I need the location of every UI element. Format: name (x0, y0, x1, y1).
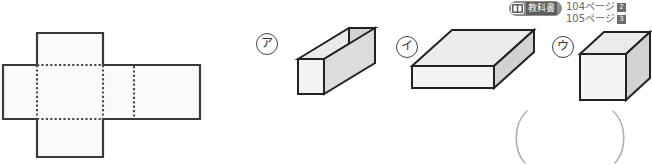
solid-label-i: イ (396, 36, 418, 58)
flat-slab-prism (410, 26, 540, 101)
open-book-icon (511, 3, 524, 14)
textbook-badge[interactable]: 教科書 104ページ 2 105ページ 3 (509, 1, 626, 25)
figure-canvas: ア イ ウ 教科書 104ページ 2 105ページ 3 (0, 0, 652, 165)
prism-b-front-face (412, 66, 494, 88)
page-reference-text: 104ページ (566, 1, 615, 13)
answer-parentheses (505, 108, 635, 165)
solid-label-a: ア (256, 33, 278, 55)
page-reference-text: 105ページ (566, 13, 615, 25)
textbook-badge-label: 教科書 (526, 2, 557, 15)
solid-label-u: ウ (552, 36, 574, 58)
textbook-badge-pill[interactable]: 教科書 (509, 1, 562, 16)
page-reference-list: 104ページ 2 105ページ 3 (566, 1, 626, 25)
prism-a-front-face (298, 59, 324, 94)
long-rectangular-prism (271, 26, 379, 106)
answer-paren-open (516, 111, 527, 163)
page-reference[interactable]: 104ページ 2 (566, 1, 626, 13)
cube (578, 28, 652, 106)
answer-paren-close (613, 111, 624, 163)
page-reference[interactable]: 105ページ 3 (566, 13, 626, 25)
page-reference-number: 3 (617, 15, 626, 24)
page-reference-number: 2 (617, 3, 626, 12)
cube-front-face (580, 54, 626, 100)
